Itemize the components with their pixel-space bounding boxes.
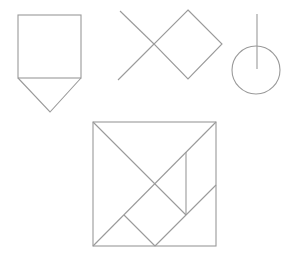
- small-square-edge: [124, 215, 155, 246]
- circle-figure: [232, 14, 280, 94]
- house-square: [18, 15, 81, 78]
- circle: [232, 46, 280, 94]
- tangram-square: [93, 122, 216, 246]
- diagonal-main: [93, 122, 186, 215]
- house-triangle: [18, 78, 81, 112]
- house-figure: [18, 15, 81, 112]
- fish-figure: [118, 10, 222, 80]
- tangram-diagram: [0, 0, 296, 260]
- fish-diamond: [154, 10, 222, 79]
- fish-tail-upper: [120, 11, 154, 44]
- fish-tail-lower: [118, 44, 154, 80]
